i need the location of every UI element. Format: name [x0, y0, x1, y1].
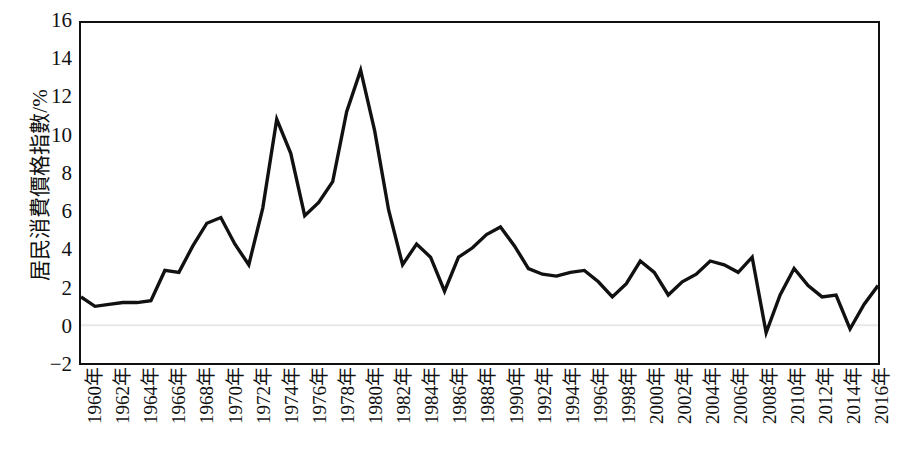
x-tick-label: 1992年: [536, 367, 554, 467]
x-tick-label: 1998年: [620, 367, 638, 467]
x-tick-label: 1964年: [142, 367, 160, 467]
y-tick-label: 12: [28, 86, 72, 107]
x-tick-label: 1972年: [255, 367, 273, 467]
x-tick-label: 1980年: [367, 367, 385, 467]
y-tick-label: 2: [28, 278, 72, 299]
y-axis-tick-labels: −20246810121416: [22, 0, 72, 472]
x-tick-label: 1974年: [283, 367, 301, 467]
x-tick-label: 2012年: [817, 367, 835, 467]
y-tick-label: 6: [28, 201, 72, 222]
x-tick-label: 1968年: [198, 367, 216, 467]
y-tick-label: 10: [28, 125, 72, 146]
x-tick-label: 2000年: [648, 367, 666, 467]
x-tick-label: 1988年: [479, 367, 497, 467]
x-tick-label: 1990年: [508, 367, 526, 467]
x-tick-label: 1984年: [423, 367, 441, 467]
plot-svg: [81, 23, 878, 363]
x-tick-label: 1966年: [170, 367, 188, 467]
x-tick-label: 1970年: [227, 367, 245, 467]
x-tick-label: 2002年: [676, 367, 694, 467]
x-tick-label: 1986年: [451, 367, 469, 467]
x-tick-label: 1996年: [592, 367, 610, 467]
y-tick-label: 0: [28, 316, 72, 337]
x-tick-label: 2016年: [873, 367, 891, 467]
x-tick-label: 1962年: [114, 367, 132, 467]
y-tick-label: 16: [28, 10, 72, 31]
cpi-series-line: [81, 70, 878, 333]
y-tick-label: 14: [28, 48, 72, 69]
x-tick-label: 1978年: [339, 367, 357, 467]
x-tick-label: 2010年: [789, 367, 807, 467]
y-tick-label: 4: [28, 239, 72, 260]
x-tick-label: 2008年: [761, 367, 779, 467]
x-tick-label: 2014年: [845, 367, 863, 467]
plot-area: [79, 21, 880, 365]
cpi-line-chart: 居民消費價格指數/% −20246810121416 1960年1962年196…: [0, 0, 897, 472]
x-tick-label: 1994年: [564, 367, 582, 467]
x-axis-tick-labels: 1960年1962年1964年1966年1968年1970年1972年1974年…: [79, 367, 880, 472]
x-tick-label: 1982年: [395, 367, 413, 467]
y-tick-label: −2: [28, 354, 72, 375]
x-tick-label: 1976年: [311, 367, 329, 467]
x-tick-label: 2004年: [704, 367, 722, 467]
x-tick-label: 1960年: [86, 367, 104, 467]
y-tick-label: 8: [28, 163, 72, 184]
x-tick-label: 2006年: [732, 367, 750, 467]
